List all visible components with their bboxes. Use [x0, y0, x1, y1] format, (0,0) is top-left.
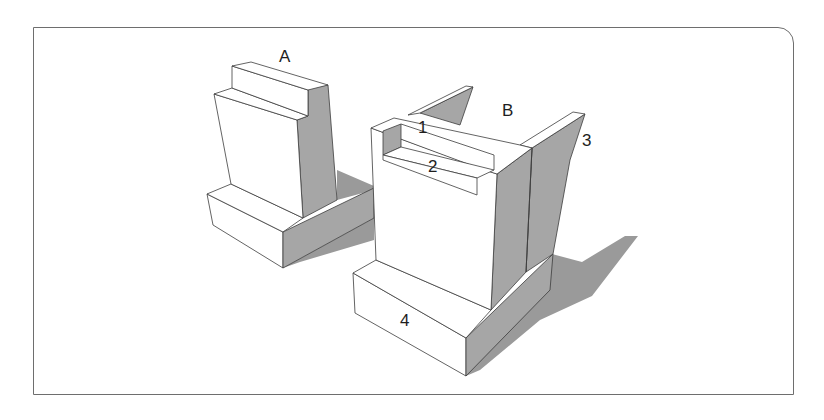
label-object-b: B [502, 102, 513, 119]
object-a [207, 62, 374, 268]
label-part-4: 4 [400, 312, 409, 329]
label-part-3: 3 [582, 132, 591, 149]
object-b [353, 86, 638, 376]
label-part-1: 1 [418, 119, 427, 136]
isometric-scene [0, 0, 824, 420]
label-object-a: A [279, 48, 290, 65]
label-part-2: 2 [428, 158, 437, 175]
